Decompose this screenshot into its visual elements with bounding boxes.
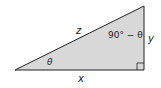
opposite-label: y — [147, 33, 155, 44]
angle-theta-label: θ — [47, 57, 53, 67]
angle-complement-label: 90° − θ — [108, 30, 143, 40]
hypotenuse-label: z — [75, 25, 82, 36]
adjacent-label: x — [77, 73, 84, 84]
right-triangle-diagram: z y x θ 90° − θ — [0, 0, 161, 88]
